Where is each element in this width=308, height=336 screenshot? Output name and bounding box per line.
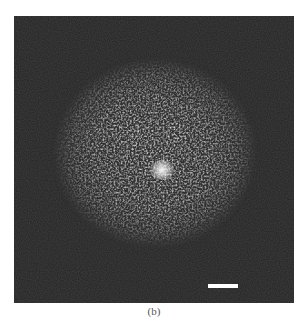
speckle-blob-image bbox=[14, 16, 294, 303]
figure-caption: (b) bbox=[0, 305, 308, 317]
scale-bar bbox=[208, 284, 238, 288]
microscopy-image bbox=[14, 16, 294, 303]
